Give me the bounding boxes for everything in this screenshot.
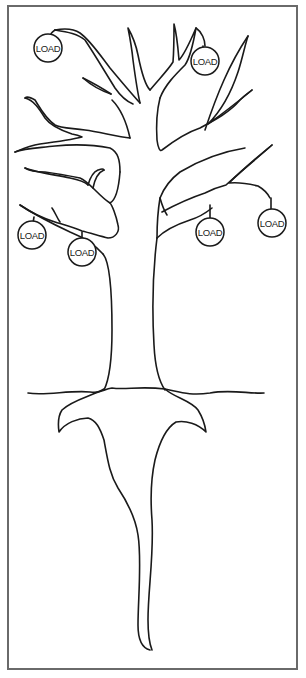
ground-line [28, 388, 264, 394]
load-weight-5: LOAD [196, 218, 224, 246]
load-weight-4: LOAD [68, 238, 96, 266]
load-weight-3: LOAD [18, 221, 46, 249]
load-label: LOAD [198, 227, 223, 238]
load-label: LOAD [20, 230, 45, 241]
load-label: LOAD [193, 56, 218, 67]
trunk [103, 238, 165, 390]
tree-diagram: LOAD LOAD LOAD LOAD LOAD LOAD [0, 0, 306, 678]
roots [58, 389, 206, 650]
load-label: LOAD [70, 247, 95, 258]
load-weight-1: LOAD [34, 34, 62, 62]
load-weight-6: LOAD [258, 209, 286, 237]
load-label: LOAD [260, 218, 285, 229]
load-label: LOAD [36, 43, 61, 54]
load-hangers [33, 30, 271, 240]
load-weight-2: LOAD [191, 47, 219, 75]
